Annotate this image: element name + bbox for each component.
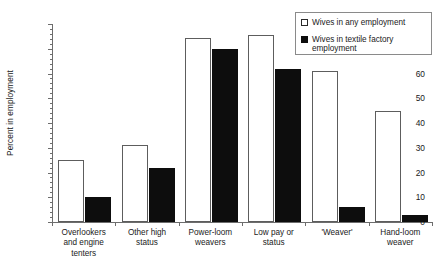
y-tick-minor (50, 44, 52, 45)
category-label-line: status (236, 238, 311, 248)
x-axis-category-label: Hand-loomweaver (363, 228, 438, 249)
y-tick-label: 60 (385, 70, 425, 78)
y-tick-major (48, 148, 52, 149)
y-tick-minor (50, 39, 52, 40)
bar (85, 197, 111, 222)
y-tick-major (48, 98, 52, 99)
legend-label: Wives in any employment (312, 18, 405, 28)
y-axis-title-text: Percent in employment (6, 38, 15, 188)
legend-swatch-open-square-icon (301, 19, 308, 26)
x-tick (115, 222, 116, 226)
x-tick (52, 222, 53, 226)
category-label-line: Hand-loom (363, 228, 438, 238)
bar (185, 38, 211, 222)
y-tick-minor (50, 182, 52, 183)
bar (339, 207, 365, 222)
y-tick-minor (50, 177, 52, 178)
bar (248, 35, 274, 222)
y-tick-minor (50, 143, 52, 144)
legend-swatch-filled-square-icon (301, 36, 308, 43)
legend-item-textile-factory-employment: Wives in textile factory employment (301, 35, 427, 54)
y-tick-minor (50, 168, 52, 169)
y-tick-minor (50, 118, 52, 119)
bar (149, 168, 175, 222)
y-tick-minor (50, 163, 52, 164)
category-label-line: tenters (46, 249, 121, 259)
x-tick (432, 222, 433, 226)
y-tick-minor (50, 83, 52, 84)
y-tick-minor (50, 54, 52, 55)
bar (212, 49, 238, 222)
y-tick-minor (50, 64, 52, 65)
y-tick-major (48, 123, 52, 124)
chart-legend: Wives in any employment Wives in textile… (295, 12, 432, 55)
y-tick-minor (50, 69, 52, 70)
x-tick (369, 222, 370, 226)
bar (275, 69, 301, 222)
y-tick-minor (50, 108, 52, 109)
y-tick-minor (50, 207, 52, 208)
legend-label: Wives in textile factory employment (312, 35, 427, 54)
y-tick-minor (50, 59, 52, 60)
y-tick-minor (50, 187, 52, 188)
bar (58, 160, 84, 222)
y-tick-minor (50, 217, 52, 218)
y-tick-minor (50, 138, 52, 139)
y-tick-major (48, 24, 52, 25)
y-tick-minor (50, 192, 52, 193)
y-tick-minor (50, 88, 52, 89)
y-tick-minor (50, 128, 52, 129)
y-tick-minor (50, 103, 52, 104)
y-tick-minor (50, 34, 52, 35)
y-tick-minor (50, 212, 52, 213)
y-tick-major (48, 49, 52, 50)
y-tick-minor (50, 93, 52, 94)
x-tick (179, 222, 180, 226)
bar (402, 215, 428, 222)
y-axis-title: Percent in employment (6, 0, 20, 38)
y-tick-minor (50, 78, 52, 79)
y-tick-minor (50, 202, 52, 203)
y-axis-line (52, 24, 53, 222)
y-tick-minor (50, 153, 52, 154)
y-tick-major (48, 173, 52, 174)
bar (122, 145, 148, 222)
y-tick-minor (50, 158, 52, 159)
bar (312, 71, 338, 222)
x-tick (242, 222, 243, 226)
bar-chart: Percent in employment 01020304050607080 … (0, 0, 444, 274)
x-tick (305, 222, 306, 226)
legend-item-any-employment: Wives in any employment (301, 18, 427, 28)
y-tick-major (48, 197, 52, 198)
bar (375, 111, 401, 222)
y-tick-minor (50, 133, 52, 134)
y-tick-label: 50 (385, 94, 425, 102)
y-tick-major (48, 74, 52, 75)
category-label-line: weaver (363, 238, 438, 248)
y-tick-minor (50, 113, 52, 114)
y-tick-minor (50, 29, 52, 30)
